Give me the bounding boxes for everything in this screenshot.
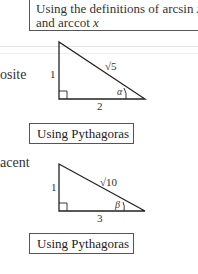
triangle1-angle-label: α: [117, 86, 122, 97]
triangle2-vertical-label: 1: [51, 181, 57, 193]
triangle1-hypotenuse-label: √5: [105, 60, 117, 72]
pythagoras-note-box-2: Using Pythagoras: [29, 233, 134, 254]
triangle2-horizontal-label: 3: [97, 212, 103, 224]
triangle1-horizontal-label: 2: [97, 100, 103, 112]
triangle2-angle-label: β: [115, 199, 120, 210]
triangle-1: [59, 42, 145, 99]
triangle2-hypotenuse-label: √10: [100, 176, 117, 188]
triangle1-vertical-label: 1: [50, 68, 56, 80]
pythagoras-note-box-1: Using Pythagoras: [29, 123, 134, 144]
